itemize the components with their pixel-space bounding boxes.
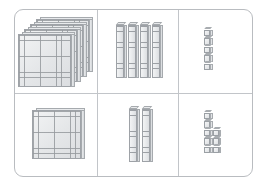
- cell-row2-tens: [98, 94, 178, 177]
- base-ten-blocks-board: [14, 9, 253, 177]
- cell-row1-ones: [179, 10, 253, 93]
- screenshot-canvas: [0, 0, 266, 186]
- cell-row1-tens: [98, 10, 178, 93]
- cell-row2-hundreds: [15, 94, 97, 177]
- cell-row2-ones: [179, 94, 253, 177]
- cell-row1-hundreds: [15, 10, 97, 93]
